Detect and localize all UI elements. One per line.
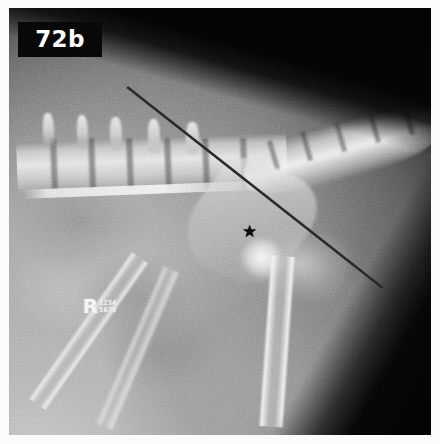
dorsal-spinous-process <box>76 114 89 149</box>
caudal-vertebra-joint <box>368 113 382 143</box>
far-femur-shaft <box>28 252 149 411</box>
sacrum-and-caudal-vertebrae <box>237 96 431 205</box>
dorsal-spinous-process <box>186 122 199 154</box>
dorsal-spinous-process <box>148 119 161 154</box>
intervertebral-disc <box>164 138 172 189</box>
measurement-line <box>9 8 431 435</box>
intervertebral-disc <box>202 138 210 189</box>
radiograph-image: ★ R 1234 5678 72b <box>9 8 431 435</box>
xray-base-tone <box>9 8 431 435</box>
film-grain-texture <box>9 8 431 435</box>
xray-organ-mottle <box>9 8 431 435</box>
figure-number-badge: 72b <box>18 22 102 57</box>
ventral-vertebral-margin <box>22 180 275 199</box>
collimation-shadow-right <box>9 8 431 435</box>
near-femur-shaft <box>258 255 296 427</box>
xray-body-wall-tone <box>9 8 431 435</box>
ischium-shadow <box>249 222 352 305</box>
collimation-shadow-top <box>9 8 431 435</box>
femoral-head-and-trochanter <box>237 234 292 285</box>
xray-thigh-tone <box>9 8 431 435</box>
star-annotation-marker: ★ <box>242 224 257 239</box>
far-limb-secondary-shaft <box>96 265 180 429</box>
caudal-vertebra-joint <box>267 140 281 170</box>
caudal-vertebra-joint <box>300 131 314 161</box>
xray-abdomen-tone <box>9 8 431 435</box>
dorsal-spinous-process <box>42 112 55 147</box>
dorsal-spinous-process <box>110 117 123 152</box>
intervertebral-disc <box>88 138 96 189</box>
caudal-vertebra-joint <box>402 104 416 134</box>
right-side-marker-id: 1234 5678 <box>99 300 116 314</box>
right-side-lead-marker: R 1234 5678 <box>83 296 116 316</box>
caudal-vertebra-joint <box>334 122 348 152</box>
film-vignette <box>9 8 431 435</box>
intervertebral-disc <box>126 138 134 189</box>
figure-container: ★ R 1234 5678 72b <box>0 0 440 444</box>
right-side-marker-letter: R <box>83 296 97 316</box>
radiograph-frame: ★ R 1234 5678 72b <box>0 0 440 444</box>
intervertebral-disc <box>240 138 248 189</box>
